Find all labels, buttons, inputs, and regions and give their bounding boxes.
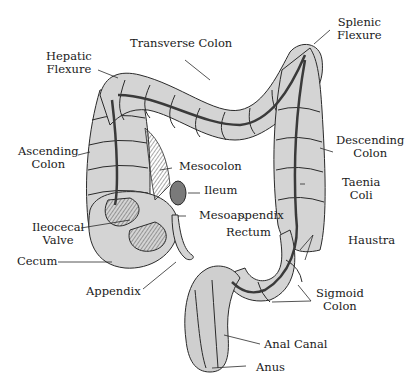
label-anal-canal: Anal Canal	[264, 338, 328, 351]
label-appendix: Appendix	[86, 285, 141, 298]
label-hepatic-flexure: Hepatic Flexure	[46, 50, 92, 76]
rectum-shape	[185, 266, 240, 372]
label-cecum: Cecum	[17, 255, 57, 268]
ileum-shape	[170, 181, 186, 205]
colon-diagram: Hepatic Flexure Transverse Colon Splenic…	[0, 0, 416, 392]
label-sigmoid-colon: Sigmoid Colon	[316, 287, 364, 313]
label-descending-colon: Descending Colon	[336, 134, 404, 160]
label-mesocolon: Mesocolon	[179, 160, 242, 173]
label-mesoappendix: Mesoappendix	[199, 209, 284, 222]
label-rectum: Rectum	[226, 226, 271, 239]
label-ascending-colon: Ascending Colon	[18, 145, 79, 171]
label-transverse-colon: Transverse Colon	[130, 37, 232, 50]
label-splenic-flexure: Splenic Flexure	[337, 16, 382, 42]
label-ileum: Ileum	[204, 184, 237, 197]
label-taenia-coli: Taenia Coli	[342, 176, 380, 202]
cecum-shape	[89, 192, 178, 269]
label-haustra: Haustra	[348, 234, 395, 247]
label-ileocecal-valve: Ileocecal Valve	[32, 221, 84, 247]
label-anus: Anus	[256, 361, 285, 374]
appendix-shape	[172, 215, 193, 260]
